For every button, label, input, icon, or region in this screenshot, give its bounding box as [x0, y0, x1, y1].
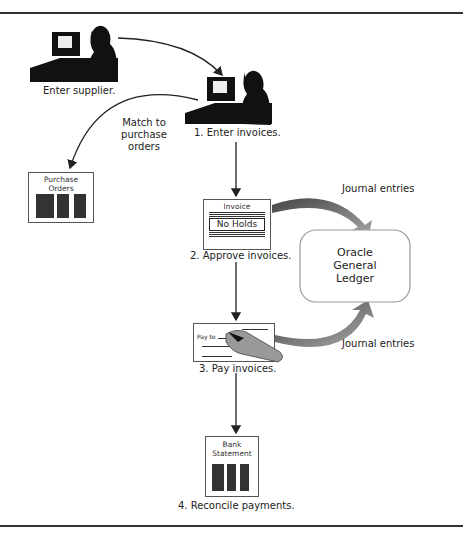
person-computer-icon-invoices: [185, 71, 272, 125]
reconcile-label: 4. Reconcile payments.: [178, 500, 295, 511]
no-holds-badge: No Holds: [209, 218, 265, 231]
invoice-document: Invoice No Holds: [203, 199, 271, 250]
enter-supplier-label: Enter supplier.: [43, 85, 115, 96]
check-document: Pay to: [193, 323, 275, 362]
bank-statement-document: Bank Statement: [205, 436, 259, 497]
approve-invoices-label: 2. Approve invoices.: [190, 250, 291, 261]
purchase-orders-document: Purchase Orders: [28, 172, 94, 223]
match-label: Match to purchase orders: [114, 117, 174, 153]
ledger-label: Oracle General Ledger: [300, 246, 410, 285]
pay-invoices-label: 3. Pay invoices.: [199, 363, 277, 374]
person-computer-icon-supplier: [30, 26, 118, 82]
enter-invoices-label: 1. Enter invoices.: [194, 127, 281, 138]
journal-entries-bottom-label: Journal entries: [342, 338, 414, 349]
journal-entries-top-label: Journal entries: [342, 183, 414, 194]
